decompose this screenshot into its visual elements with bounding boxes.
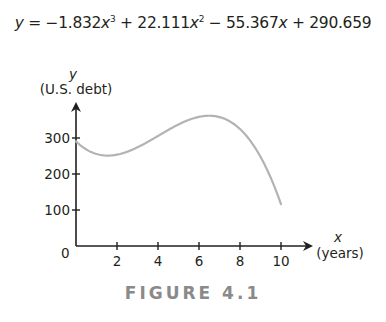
y-tick-label: 200 [44,166,70,182]
x-tick-label: 8 [236,253,245,269]
y-ticks: 100200300 [44,130,80,218]
origin-label: 0 [61,245,70,261]
x-axis-label: (years) [316,245,364,261]
x-tick-label: 2 [113,253,122,269]
x-axis-var: x [333,229,343,245]
y-axis-label: (U.S. debt) [40,81,113,97]
x-tick-label: 10 [272,253,289,269]
x-tick-label: 6 [195,253,204,269]
debt-curve [76,116,281,204]
figure-caption: FIGURE 4.1 [0,283,386,303]
chart-plot: 100200300 246810 0 y (U.S. debt) x (year… [0,0,386,322]
x-tick-label: 4 [154,253,163,269]
y-tick-label: 100 [44,202,70,218]
y-axis-var: y [68,66,78,82]
y-tick-label: 300 [44,130,70,146]
